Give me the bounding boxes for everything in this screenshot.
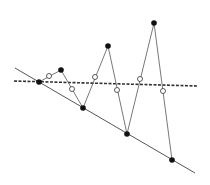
background	[0, 0, 210, 185]
filled-point-7	[169, 157, 175, 163]
filled-point-4	[105, 43, 111, 49]
open-point-3	[93, 75, 98, 80]
filled-point-6	[151, 20, 157, 26]
filled-point-3	[80, 105, 86, 111]
zigzag-diagram	[0, 0, 210, 185]
filled-point-5	[124, 131, 130, 137]
filled-point-2	[58, 67, 64, 73]
open-point-4	[115, 88, 120, 93]
filled-point-1	[36, 79, 42, 85]
open-point-5	[138, 77, 143, 82]
open-point-1	[47, 74, 52, 79]
open-point-2	[70, 87, 75, 92]
open-point-6	[161, 89, 166, 94]
